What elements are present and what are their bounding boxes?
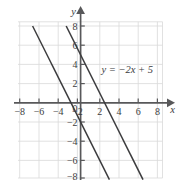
y-tick-label-neg2: −2 (67, 117, 78, 128)
y-tick-label-2: 2 (73, 78, 78, 89)
graph-figure: −8 −6 −4 −2 2 4 6 8 8 6 4 2 −2 −4 −6 −8 … (0, 0, 181, 180)
equation-annotation: y = −2x + 5 (101, 64, 154, 75)
y-axis-tick-labels: 8 6 4 2 −2 −4 −6 −8 (67, 21, 78, 180)
y-tick-label-4: 4 (73, 59, 78, 70)
y-tick-label-6: 6 (73, 40, 78, 51)
y-axis-label: y (70, 6, 76, 17)
y-tick-label-8: 8 (73, 21, 78, 32)
coordinate-plane-graph: −8 −6 −4 −2 2 4 6 8 8 6 4 2 −2 −4 −6 −8 … (0, 0, 181, 180)
y-tick-label-neg8: −8 (67, 171, 78, 180)
y-tick-label-neg6: −6 (67, 155, 78, 166)
y-axis-arrowhead-icon (76, 6, 85, 14)
x-tick-label-neg6: −6 (34, 106, 45, 117)
x-tick-label-8: 8 (155, 106, 160, 117)
x-tick-label-neg4: −4 (53, 106, 64, 117)
x-tick-label-6: 6 (136, 106, 141, 117)
x-axis-tick-labels: −8 −6 −4 −2 2 4 6 8 (14, 106, 160, 117)
x-tick-label-4: 4 (117, 106, 122, 117)
horizontal-gridlines (18, 22, 163, 178)
origin-label: 0 (73, 103, 78, 114)
x-axis-label: x (169, 104, 175, 115)
y-tick-label-neg4: −4 (67, 136, 78, 147)
x-tick-label-2: 2 (97, 106, 102, 117)
x-tick-label-neg8: −8 (14, 106, 25, 117)
